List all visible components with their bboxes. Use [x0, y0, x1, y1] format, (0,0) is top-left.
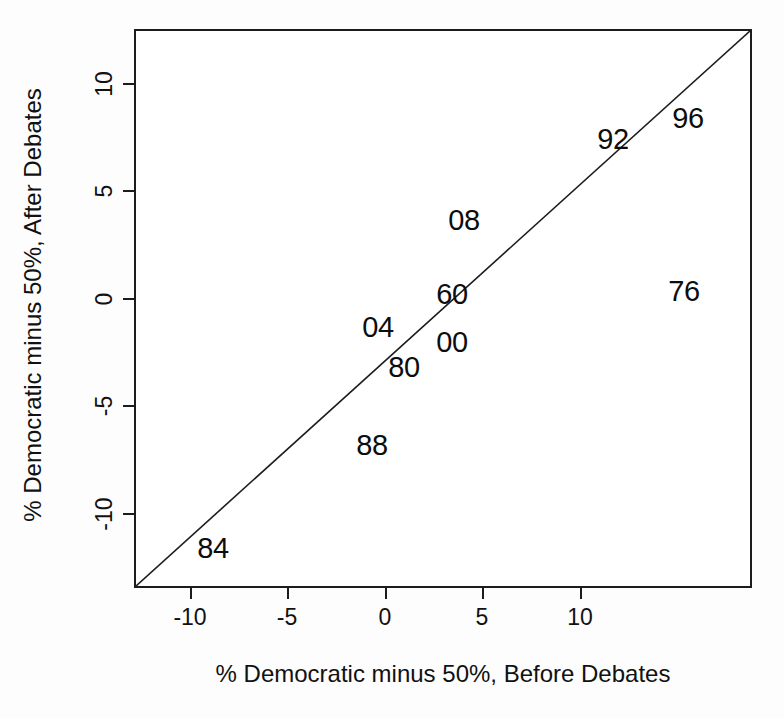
x-tick-label: -5 — [277, 606, 297, 629]
data-point-76: 76 — [668, 277, 699, 306]
x-tick-label: 0 — [379, 606, 392, 629]
data-point-92: 92 — [597, 125, 628, 154]
data-point-08: 08 — [448, 206, 479, 235]
x-tick-label: -10 — [173, 606, 206, 629]
y-tick-label: 10 — [93, 71, 116, 97]
y-tick-label: -10 — [93, 497, 116, 530]
y-tick-mark — [123, 405, 134, 407]
x-tick-mark — [190, 588, 192, 599]
x-axis-title: % Democratic minus 50%, Before Debates — [216, 662, 671, 686]
data-point-04: 04 — [362, 313, 393, 342]
y-tick-mark — [123, 190, 134, 192]
y-tick-label: -5 — [93, 396, 116, 416]
data-point-96: 96 — [672, 104, 703, 133]
data-point-60: 60 — [436, 280, 467, 309]
data-point-00: 00 — [436, 328, 467, 357]
y-tick-mark — [123, 83, 134, 85]
x-tick-label: 10 — [567, 606, 593, 629]
data-point-84: 84 — [197, 534, 228, 563]
x-tick-mark — [580, 588, 582, 599]
x-tick-mark — [482, 588, 484, 599]
x-tick-mark — [385, 588, 387, 599]
x-tick-label: 5 — [476, 606, 489, 629]
data-point-80: 80 — [388, 353, 419, 382]
data-point-88: 88 — [356, 431, 387, 460]
y-tick-label: 0 — [93, 293, 116, 306]
y-tick-mark — [123, 513, 134, 515]
y-tick-mark — [123, 298, 134, 300]
y-axis-title: % Democratic minus 50%, After Debates — [21, 88, 45, 522]
y-tick-label: 5 — [93, 185, 116, 198]
x-tick-mark — [287, 588, 289, 599]
chart-figure: 84 88 80 04 00 60 08 76 92 96 -10 -5 0 5… — [0, 0, 784, 719]
